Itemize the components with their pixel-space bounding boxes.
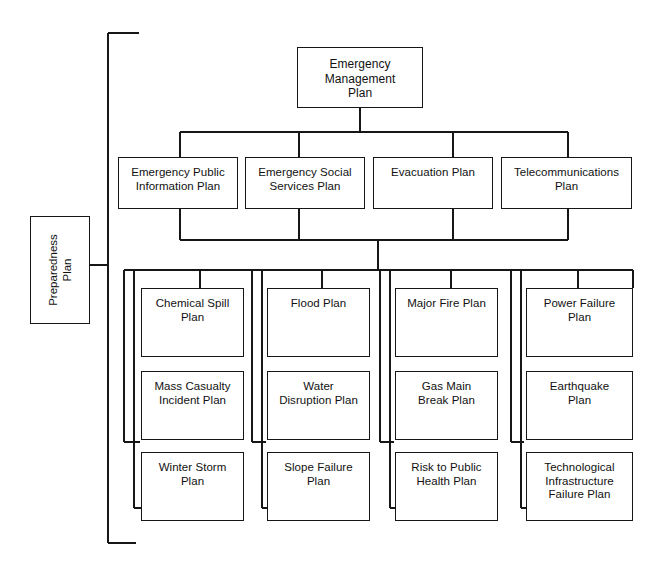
node-label: WaterDisruption Plan <box>268 372 369 407</box>
node-flood-plan[interactable]: Flood Plan <box>267 288 370 357</box>
node-technological-infrastructure-failure-plan[interactable]: TechnologicalInfrastructureFailure Plan <box>526 452 633 521</box>
node-winter-storm-plan[interactable]: Winter StormPlan <box>141 452 244 521</box>
node-label: Evacuation Plan <box>374 158 492 180</box>
node-chemical-spill-plan[interactable]: Chemical SpillPlan <box>141 288 244 357</box>
node-label: EmergencyManagementPlan <box>298 48 422 101</box>
node-emergency-management-plan[interactable]: EmergencyManagementPlan <box>297 47 423 108</box>
node-label: Flood Plan <box>268 289 369 311</box>
node-label: Winter StormPlan <box>142 453 243 488</box>
node-evacuation-plan[interactable]: Evacuation Plan <box>373 157 493 209</box>
node-mass-casualty-incident-plan[interactable]: Mass CasualtyIncident Plan <box>141 371 244 440</box>
node-power-failure-plan[interactable]: Power FailurePlan <box>526 288 633 357</box>
node-risk-to-public-health-plan[interactable]: Risk to PublicHealth Plan <box>395 452 498 521</box>
node-label: Chemical SpillPlan <box>142 289 243 324</box>
node-earthquake-plan[interactable]: EarthquakePlan <box>526 371 633 440</box>
node-preparedness-plan[interactable]: PreparednessPlan <box>30 216 90 324</box>
node-label: Mass CasualtyIncident Plan <box>142 372 243 407</box>
node-emergency-social-services-plan[interactable]: Emergency SocialServices Plan <box>245 157 365 209</box>
node-label: Gas MainBreak Plan <box>396 372 497 407</box>
node-label: Emergency SocialServices Plan <box>246 158 364 193</box>
org-chart-canvas: EmergencyManagementPlan PreparednessPlan… <box>0 0 666 566</box>
node-label: Power FailurePlan <box>527 289 632 324</box>
node-label: Emergency PublicInformation Plan <box>119 158 237 193</box>
node-gas-main-break-plan[interactable]: Gas MainBreak Plan <box>395 371 498 440</box>
node-label: EarthquakePlan <box>527 372 632 407</box>
node-label: Risk to PublicHealth Plan <box>396 453 497 488</box>
node-label: Major Fire Plan <box>396 289 497 311</box>
node-major-fire-plan[interactable]: Major Fire Plan <box>395 288 498 357</box>
node-label: PreparednessPlan <box>47 234 74 306</box>
node-label: TelecommunicationsPlan <box>502 158 631 193</box>
node-telecommunications-plan[interactable]: TelecommunicationsPlan <box>501 157 632 209</box>
node-water-disruption-plan[interactable]: WaterDisruption Plan <box>267 371 370 440</box>
node-label: TechnologicalInfrastructureFailure Plan <box>527 453 632 502</box>
node-label: Slope FailurePlan <box>268 453 369 488</box>
node-emergency-public-information-plan[interactable]: Emergency PublicInformation Plan <box>118 157 238 209</box>
node-slope-failure-plan[interactable]: Slope FailurePlan <box>267 452 370 521</box>
